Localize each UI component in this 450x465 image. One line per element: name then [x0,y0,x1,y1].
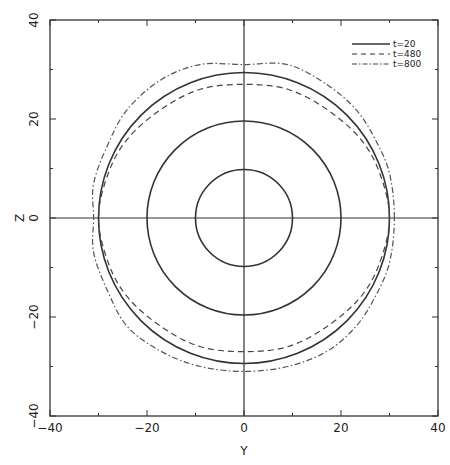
x-tick-label: 0 [240,421,248,435]
y-tick-label: 20 [27,111,41,126]
y-tick-label: 40 [27,12,41,27]
y-tick-label: 0 [27,214,41,222]
x-tick-label: 20 [333,421,348,435]
legend-label: t=480 [393,49,422,59]
y-tick-label: −40 [27,403,41,428]
x-tick-label: 40 [430,421,445,435]
plot-area: −40−2002040−40−2002040 [27,12,446,435]
x-axis-label: Y [239,444,248,458]
y-axis-label: Z [13,214,27,222]
x-tick-label: −20 [134,421,159,435]
x-tick-label: −40 [37,421,62,435]
y-tick-label: −20 [27,304,41,329]
legend: t=20 t=480 t=800 [352,39,422,69]
legend-label: t=20 [393,39,416,49]
legend-label: t=800 [393,59,422,69]
contour-chart: −40−2002040−40−2002040 t=20 t=480 t=800 … [0,0,450,465]
